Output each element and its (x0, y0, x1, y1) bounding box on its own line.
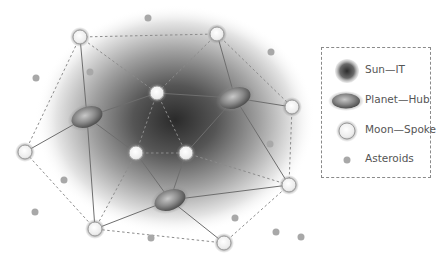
asteroid-node (61, 177, 68, 184)
moon-node (207, 24, 227, 44)
asteroid-node (33, 75, 40, 82)
moon-node (70, 27, 90, 47)
legend-item-planet: Planet—Hub (322, 88, 430, 114)
legend-label-asteroid: Asteroids (365, 152, 414, 164)
moon-node (282, 97, 302, 117)
moon-node (85, 219, 105, 239)
asteroid-node (148, 235, 155, 242)
legend-label-moon: Moon—Spoke (365, 123, 436, 135)
moon-node (214, 233, 234, 253)
asteroid-node (267, 141, 274, 148)
legend: Sun—IT Planet—Hub Moon—Spoke Asteroids (321, 47, 431, 178)
asteroid-node (232, 215, 239, 222)
moon-node (15, 142, 35, 162)
asteroid-node (87, 69, 94, 76)
legend-item-moon: Moon—Spoke (322, 118, 430, 144)
moon-node (147, 83, 167, 103)
legend-label-sun: Sun—IT (365, 63, 405, 75)
planet-icon (327, 89, 365, 113)
sun-icon (334, 58, 360, 84)
moon-node (126, 143, 146, 163)
moon-node (279, 175, 299, 195)
moon-icon (334, 118, 360, 144)
legend-label-planet: Planet—Hub (365, 93, 430, 105)
asteroid-node (32, 209, 39, 216)
legend-item-sun: Sun—IT (322, 58, 430, 84)
moon-node (176, 143, 196, 163)
asteroid-node (273, 229, 280, 236)
legend-item-asteroid: Asteroids (322, 147, 430, 173)
asteroid-node (268, 49, 275, 56)
asteroid-node (145, 15, 152, 22)
asteroid-icon (334, 147, 360, 173)
asteroid-node (298, 234, 305, 241)
